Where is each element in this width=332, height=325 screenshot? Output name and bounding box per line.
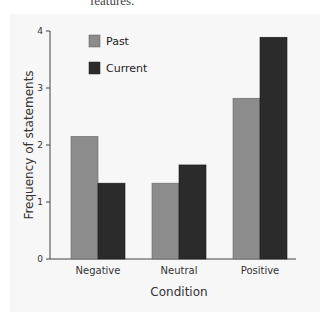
- bar-past-neutral: [152, 183, 179, 259]
- y-ticks: 0 1 2 3 4: [37, 26, 50, 264]
- bar-current-positive: [260, 37, 287, 259]
- y-tick-label: 2: [37, 140, 43, 150]
- x-category-label: Positive: [241, 265, 280, 276]
- y-tick-label: 4: [37, 26, 43, 36]
- x-category-label: Neutral: [161, 265, 198, 276]
- x-category-label: Negative: [76, 265, 121, 276]
- x-category-labels: Negative Neutral Positive: [76, 265, 280, 276]
- y-tick-label: 0: [37, 254, 43, 264]
- y-tick-label: 3: [37, 83, 43, 93]
- legend-label-current: Current: [106, 62, 148, 75]
- bar-current-negative: [98, 183, 125, 259]
- y-tick-label: 1: [37, 197, 43, 207]
- bar-chart: 0 1 2 3 4 Frequency of statements Negati…: [0, 0, 332, 325]
- x-axis-title: Condition: [150, 285, 207, 299]
- bars: [71, 37, 287, 259]
- bar-current-neutral: [179, 165, 206, 259]
- bar-past-negative: [71, 136, 98, 259]
- y-axis-title: Frequency of statements: [22, 70, 36, 219]
- legend-swatch-past: [89, 35, 100, 47]
- legend-label-past: Past: [106, 35, 130, 48]
- legend: Past Current: [89, 35, 148, 75]
- bar-past-positive: [233, 98, 260, 259]
- legend-swatch-current: [89, 62, 100, 74]
